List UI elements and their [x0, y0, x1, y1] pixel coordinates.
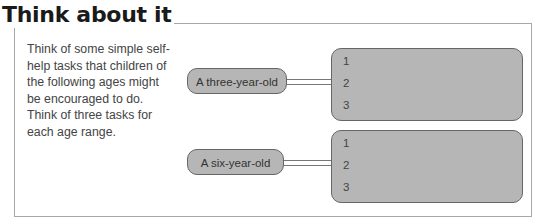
age-label-three: A three-year-old	[187, 68, 287, 94]
item-number: 3	[343, 99, 349, 111]
item-number: 1	[343, 55, 349, 67]
item-number: 1	[343, 137, 349, 149]
item-number: 3	[343, 181, 349, 193]
instructions-text: Think of some simple self-help tasks tha…	[27, 41, 175, 140]
answer-box-three[interactable]: 1 2 3	[331, 48, 523, 121]
item-number: 2	[343, 159, 349, 171]
section-title: Think about it	[2, 2, 174, 28]
item-number: 2	[343, 77, 349, 89]
connector-line	[287, 79, 332, 85]
answer-box-six[interactable]: 1 2 3	[331, 130, 523, 203]
connector-line	[284, 160, 332, 166]
age-label-six: A six-year-old	[187, 149, 284, 175]
